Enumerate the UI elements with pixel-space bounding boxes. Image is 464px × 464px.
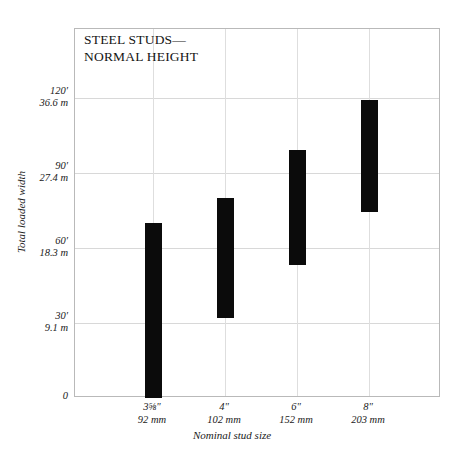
x-tick-8-inch: 8" 203 mm: [323, 401, 413, 426]
y-axis-title: Total loaded width: [15, 147, 27, 277]
y-tick-60-meters: 18.3 m: [39, 247, 68, 259]
y-tick-90: 90′ 27.4 m: [39, 160, 68, 184]
y-tick-30: 30′ 9.1 m: [45, 310, 68, 334]
plot-area: [74, 28, 440, 397]
gridline-30ft: [75, 323, 439, 324]
y-tick-0-feet: 0: [63, 390, 68, 402]
chart-figure: STEEL STUDS— NORMAL HEIGHT 120′ 36.6 m 9…: [0, 0, 464, 464]
x-tick-4-mm: 203 mm: [323, 414, 413, 427]
bar-4-inch: [217, 198, 234, 318]
gridline-90ft: [75, 173, 439, 174]
y-tick-90-meters: 27.4 m: [39, 172, 68, 184]
gridline-cat-4: [369, 29, 370, 396]
y-tick-90-feet: 90′: [39, 160, 68, 172]
y-axis-tick-labels: 120′ 36.6 m 90′ 27.4 m 60′ 18.3 m 30′ 9.…: [0, 0, 74, 464]
x-axis-title: Nominal stud size: [0, 429, 464, 441]
y-tick-120: 120′ 36.6 m: [39, 85, 68, 109]
bar-8-inch: [361, 100, 378, 212]
gridline-120ft: [75, 98, 439, 99]
y-tick-120-feet: 120′: [39, 85, 68, 97]
chart-title: STEEL STUDS— NORMAL HEIGHT: [84, 32, 198, 66]
y-tick-60: 60′ 18.3 m: [39, 235, 68, 259]
y-tick-120-meters: 36.6 m: [39, 97, 68, 109]
y-tick-30-feet: 30′: [45, 310, 68, 322]
y-tick-60-feet: 60′: [39, 235, 68, 247]
y-tick-0: 0: [63, 390, 68, 402]
gridline-60ft: [75, 248, 439, 249]
bar-6-inch: [289, 150, 306, 265]
y-tick-30-meters: 9.1 m: [45, 322, 68, 334]
bar-3-5-8-inch: [145, 223, 162, 398]
x-tick-4-inches: 8": [323, 401, 413, 414]
